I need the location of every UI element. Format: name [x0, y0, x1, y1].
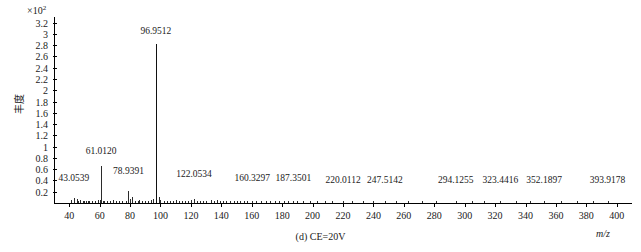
y-tick-label: 0.6: [36, 164, 49, 175]
spectrum-peak: [256, 201, 257, 203]
peak-label: 323.4416: [483, 175, 519, 185]
y-tick-mark: [53, 79, 57, 80]
y-tick-label: 2.6: [36, 51, 49, 62]
spectrum-peak: [266, 201, 267, 203]
peak-label: 294.1255: [438, 175, 474, 185]
spectrum-peak: [176, 200, 177, 203]
x-tick-mark: [313, 203, 314, 207]
spectrum-peak: [200, 201, 201, 203]
y-tick-mark: [53, 135, 57, 136]
spectrum-peak: [126, 201, 127, 203]
spectrum-peak: [116, 201, 117, 203]
spectrum-peak: [352, 201, 353, 203]
spectrum-peak: [206, 201, 207, 203]
y-tick-label: 0.2: [36, 186, 49, 197]
spectrum-peak: [223, 201, 224, 203]
y-tick-mark: [53, 45, 57, 46]
y-axis-scale-exponent: 2: [43, 4, 47, 12]
spectrum-peak: [284, 201, 285, 203]
peak-label: 78.9391: [113, 166, 144, 176]
peak-label: 122.0534: [176, 169, 212, 179]
y-tick-label: 2.4: [36, 62, 49, 73]
y-tick-label: 3: [43, 28, 48, 39]
spectrum-peak: [104, 201, 105, 203]
y-tick-mark: [53, 124, 57, 125]
spectrum-peak: [139, 200, 140, 203]
spectrum-peak: [179, 201, 180, 203]
spectrum-peak: [101, 166, 102, 203]
spectrum-peak: [234, 201, 235, 203]
peak-label: 393.9178: [590, 175, 626, 185]
spectrum-peak: [484, 201, 485, 203]
peak-label: 61.0120: [86, 146, 117, 156]
spectrum-peak: [135, 201, 136, 203]
spectrum-peak: [303, 201, 304, 203]
spectrum-peak: [261, 201, 262, 203]
y-tick-mark: [53, 158, 57, 159]
spectrum-peak: [92, 201, 93, 203]
spectrum-peak: [279, 201, 280, 203]
spectrum-peak: [148, 201, 149, 203]
spectrum-peak: [74, 198, 75, 203]
y-tick-mark: [53, 113, 57, 114]
peak-label: 187.3501: [276, 173, 312, 183]
spectrum-peak: [577, 201, 578, 203]
y-tick-label: 0.8: [36, 152, 49, 163]
spectrum-peak: [544, 201, 545, 203]
spectrum-peak: [456, 201, 457, 203]
peak-label: 160.3297: [234, 173, 270, 183]
spectrum-peak: [408, 201, 409, 203]
y-tick-mark: [53, 147, 57, 148]
y-axis-scale-note: ×102: [27, 4, 46, 16]
y-tick-mark: [53, 34, 57, 35]
plot-area: 0.20.40.60.811.21.41.61.822.22.42.62.833…: [54, 17, 632, 203]
spectrum-peak: [145, 201, 146, 203]
peak-label: 247.5142: [367, 175, 403, 185]
figure-caption: (d) CE=20V: [0, 231, 641, 242]
y-tick-label: 3.2: [36, 17, 49, 28]
spectrum-peak: [247, 201, 248, 203]
spectrum-peak: [107, 201, 108, 203]
x-tick-mark: [404, 203, 405, 207]
y-tick-label: 2: [43, 85, 48, 96]
spectrum-peak: [194, 199, 195, 203]
spectrum-peak: [197, 201, 198, 203]
peak-label: 96.9512: [140, 26, 171, 36]
spectrum-peak: [191, 200, 192, 203]
spectrum-peak: [252, 201, 253, 203]
spectrum-peak: [293, 201, 294, 203]
x-tick-mark: [465, 203, 466, 207]
spectrum-peak: [244, 201, 245, 203]
spectrum-peak: [373, 201, 374, 203]
y-axis-scale-prefix: ×10: [27, 5, 43, 16]
x-tick-mark: [373, 203, 374, 207]
y-tick-label: 1.2: [36, 130, 49, 141]
spectrum-peak: [310, 201, 311, 203]
spectrum-peak: [89, 201, 90, 203]
spectrum-peak: [142, 201, 143, 203]
x-tick-mark: [282, 203, 283, 207]
spectrum-peak: [164, 201, 165, 203]
x-tick-mark: [343, 203, 344, 207]
spectrum-peak: [226, 201, 227, 203]
spectrum-peak: [561, 201, 562, 203]
spectrum-peak: [80, 200, 81, 203]
x-tick-mark: [617, 203, 618, 207]
spectrum-peak: [217, 200, 218, 203]
spectrum-peak: [220, 201, 221, 203]
spectrum-peak: [472, 201, 473, 203]
spectrum-peak: [185, 201, 186, 203]
x-tick-mark: [221, 203, 222, 207]
y-tick-mark: [53, 102, 57, 103]
x-tick-mark: [252, 203, 253, 207]
spectrum-peak: [500, 201, 501, 203]
y-tick-mark: [53, 68, 57, 69]
spectrum-peak: [237, 201, 238, 203]
y-tick-mark: [53, 180, 57, 181]
spectrum-peak: [182, 201, 183, 203]
spectrum-peak: [363, 201, 364, 203]
y-tick-label: 1.6: [36, 107, 49, 118]
peak-label: 352.1897: [526, 175, 562, 185]
spectrum-peak: [95, 201, 96, 203]
spectrum-peak: [100, 200, 101, 203]
